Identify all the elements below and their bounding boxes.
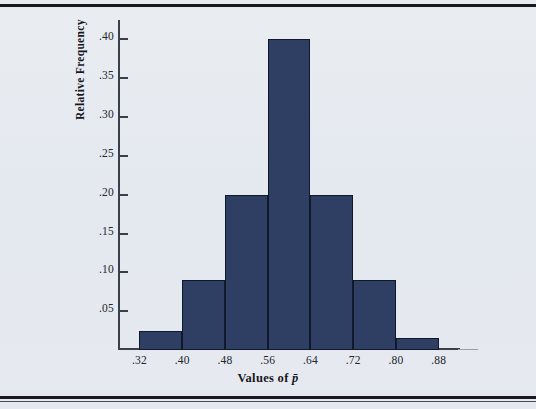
histogram-bar: [310, 195, 353, 350]
figure-panel: Relative Frequency .05.10.15.20.25.30.35…: [0, 0, 536, 409]
histogram-bar: [353, 280, 396, 350]
x-tick-label: .72: [346, 354, 361, 366]
y-tick-35: .35: [120, 77, 128, 79]
x-axis-title-prefix: Values of: [237, 371, 292, 385]
x-tick-label: .64: [303, 354, 318, 366]
y-tick-label: .20: [99, 186, 114, 198]
y-tick-label: .05: [99, 302, 114, 314]
x-tick-label: .56: [260, 354, 275, 366]
x-axis-title: Values of p̄: [0, 371, 536, 386]
bottom-rule-secondary: [0, 401, 536, 402]
y-axis-line: [118, 20, 120, 350]
y-tick-15: .15: [120, 233, 128, 235]
x-axis-line-extension: [458, 349, 478, 350]
x-tick-label: .32: [132, 354, 147, 366]
x-tick-label: .88: [431, 354, 446, 366]
histogram-bar: [268, 39, 311, 350]
histogram-bar: [396, 338, 439, 350]
y-tick-label: .30: [99, 108, 114, 120]
y-tick-10: .10: [120, 271, 128, 273]
histogram-bar: [139, 331, 182, 350]
y-tick-20: .20: [120, 194, 128, 196]
plot-area: .05.10.15.20.25.30.35.40 .32.40.48.56.64…: [118, 20, 478, 352]
histogram-bar: [225, 195, 268, 350]
histogram-bar: [182, 280, 225, 350]
y-tick-30: .30: [120, 116, 128, 118]
top-rule: [0, 4, 536, 7]
y-axis-title: Relative Frequency: [74, 19, 86, 120]
y-tick-label: .40: [99, 30, 114, 42]
y-tick-40: .40: [120, 38, 128, 40]
x-tick-label: .48: [217, 354, 232, 366]
y-tick-05: .05: [120, 310, 128, 312]
bottom-rule: [0, 396, 536, 399]
x-tick-label: .40: [175, 354, 190, 366]
p-bar-symbol: p̄: [292, 371, 299, 385]
y-tick-label: .15: [99, 225, 114, 237]
y-tick-label: .10: [99, 263, 114, 275]
y-tick-label: .35: [99, 69, 114, 81]
y-tick-label: .25: [99, 147, 114, 159]
x-tick-label: .80: [388, 354, 403, 366]
y-tick-25: .25: [120, 155, 128, 157]
